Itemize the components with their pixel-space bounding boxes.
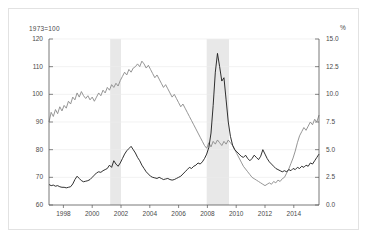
left-axis-tick-label: 100 (15, 90, 43, 97)
gridlines-group (49, 39, 319, 177)
x-axis-tick-label: 2000 (77, 210, 107, 217)
x-axis-tick-label: 2006 (164, 210, 194, 217)
x-axis-tick-label: 1998 (48, 210, 78, 217)
x-axis-tick-label: 2004 (135, 210, 165, 217)
left-axis-tick-label: 60 (15, 201, 43, 208)
chart-figure: 1973=100 % 12011010090807060 15.012.510.… (0, 0, 367, 238)
left-axis-tick-label: 110 (15, 63, 43, 70)
right-axis-tick-label: 2.5 (326, 173, 335, 180)
right-axis-tick-label: 12.5 (326, 63, 339, 70)
right-axis-tick-label: 10.0 (326, 90, 339, 97)
x-axis-tick-label: 2014 (279, 210, 309, 217)
chart-svg (49, 39, 319, 205)
x-axis-tick-label: 2008 (192, 210, 222, 217)
x-axis-tick-label: 2012 (250, 210, 280, 217)
x-axis-tick-label: 2010 (221, 210, 251, 217)
right-axis-tick-label: 7.5 (326, 118, 335, 125)
right-axis-tick-label: 15.0 (326, 35, 339, 42)
right-axis-tick-label: 0.0 (326, 201, 335, 208)
tick-marks-group (49, 39, 319, 208)
left-axis-unit-label: 1973=100 (29, 25, 60, 32)
left-axis-tick-label: 70 (15, 173, 43, 180)
left-axis-tick-label: 120 (15, 35, 43, 42)
right-axis-unit-label: % (340, 24, 346, 31)
x-axis-tick-label: 2002 (106, 210, 136, 217)
left-axis-tick-label: 80 (15, 146, 43, 153)
right-axis-tick-label: 5.0 (326, 146, 335, 153)
series-line-percent-series (49, 53, 319, 187)
plot-area (49, 39, 319, 205)
series-group (49, 53, 319, 187)
left-axis-tick-label: 90 (15, 118, 43, 125)
chart-frame: 1973=100 % 12011010090807060 15.012.510.… (8, 8, 359, 230)
series-line-index-series (49, 61, 319, 186)
